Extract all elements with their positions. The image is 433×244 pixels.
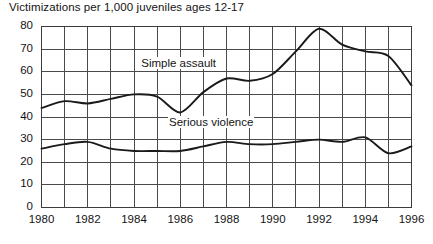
x-tick-label: 1992: [298, 213, 340, 225]
y-tick-label: 50: [3, 87, 33, 99]
x-tick-label: 1996: [391, 213, 433, 225]
x-tick-label: 1982: [67, 213, 109, 225]
x-tick-label: 1990: [252, 213, 294, 225]
y-tick-label: 20: [3, 155, 33, 167]
y-tick-label: 60: [3, 64, 33, 76]
x-tick-label: 1988: [206, 213, 248, 225]
y-tick-label: 70: [3, 42, 33, 54]
y-tick-label: 0: [3, 200, 33, 212]
y-tick-label: 80: [3, 19, 33, 31]
x-tick-label: 1986: [159, 213, 201, 225]
x-tick-label: 1994: [344, 213, 386, 225]
y-tick-label: 30: [3, 132, 33, 144]
y-tick-label: 40: [3, 110, 33, 122]
series-label-0: Simple assault: [140, 57, 217, 69]
y-tick-label: 10: [3, 177, 33, 189]
chart-container: Victimizations per 1,000 juveniles ages …: [0, 0, 433, 244]
x-tick-label: 1980: [21, 213, 63, 225]
x-tick-label: 1984: [113, 213, 155, 225]
series-label-1: Serious violence: [168, 116, 254, 128]
